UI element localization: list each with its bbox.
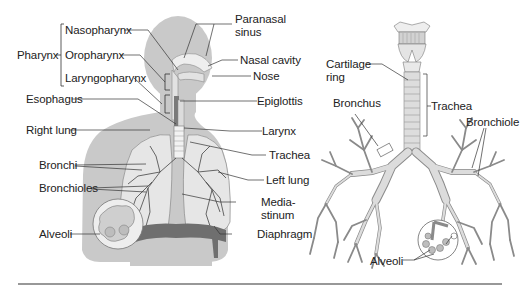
respiratory-diagram: Nasopharynx Pharynx Oropharynx Laryngoph… xyxy=(0,0,530,291)
label-larynx: Larynx xyxy=(262,125,296,137)
larynx-cartilage xyxy=(394,22,430,72)
label-right-lung: Right lung xyxy=(26,124,77,136)
bronchial-tree xyxy=(326,152,500,254)
label-bronchioles: Bronchioles xyxy=(39,182,98,194)
label-alveoli-left: Alveoli xyxy=(39,228,72,240)
diagram-artwork xyxy=(0,0,530,291)
label-bronchiole: Bronchiole xyxy=(466,116,519,128)
label-epiglottis: Epiglottis xyxy=(257,95,303,107)
label-diaphragm: Diaphragm xyxy=(257,228,312,240)
label-trachea-left: Trachea xyxy=(269,149,310,161)
bronchial-tree-inner xyxy=(326,152,500,254)
label-paranasal-sinus: Paranasal sinus xyxy=(235,13,286,39)
label-alveoli-right: Alveoli xyxy=(370,255,403,267)
label-bronchi: Bronchi xyxy=(39,159,77,171)
trachea-rings xyxy=(404,72,420,152)
label-mediastinum: Media- stinum xyxy=(261,196,296,222)
trachea-body xyxy=(174,126,184,158)
label-nasal-cavity: Nasal cavity xyxy=(240,54,301,66)
label-pharynx: Pharynx xyxy=(17,49,59,61)
label-oropharynx: Oropharynx xyxy=(65,49,124,61)
label-esophagus: Esophagus xyxy=(26,93,83,105)
label-left-lung: Left lung xyxy=(266,174,309,186)
label-bronchus: Bronchus xyxy=(333,97,381,109)
label-laryngopharynx: Laryngopharynx xyxy=(65,72,146,84)
label-cartilage-ring: Cartilage ring xyxy=(326,58,371,84)
alveoli-inset xyxy=(93,199,143,249)
label-nose: Nose xyxy=(253,70,279,82)
label-nasopharynx: Nasopharynx xyxy=(65,24,132,36)
label-trachea-right: Trachea xyxy=(431,100,472,112)
